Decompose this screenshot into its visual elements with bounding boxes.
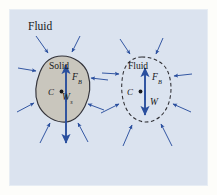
left-buoyant-force-subscript: B: [78, 78, 82, 85]
solid-body-label: Solid: [49, 62, 69, 72]
pressure-arrow: [91, 78, 108, 80]
pressure-arrow: [173, 104, 191, 112]
pressure-arrow: [17, 103, 34, 112]
pressure-arrow: [161, 124, 172, 146]
left-weight-subscript: s: [70, 98, 72, 105]
right-weight-symbol: W: [150, 97, 158, 107]
left-weight-symbol: W: [62, 92, 70, 102]
pressure-arrow: [174, 74, 192, 76]
pressure-arrow: [78, 123, 88, 142]
left-buoyant-force-symbol: F: [72, 72, 78, 82]
pressure-arrow: [101, 104, 119, 113]
buoyancy-figure: Fluid Solid Fluid FB Ws C FB W C: [0, 0, 217, 195]
left-buoyant-force-label: FB: [72, 73, 82, 84]
left-weight-label: Ws: [62, 93, 72, 104]
right-buoyant-force-label: FB: [152, 73, 162, 84]
centroid-dot: [139, 90, 143, 94]
pressure-arrow: [120, 39, 130, 54]
fluid-body-label: Fluid: [128, 62, 148, 72]
pressure-arrow: [18, 68, 36, 71]
right-body-group: [101, 38, 192, 146]
pressure-arrow: [123, 125, 132, 146]
pressure-arrow: [88, 104, 104, 110]
right-centroid-label: C: [127, 88, 133, 97]
right-buoyant-force-symbol: F: [152, 72, 158, 82]
pressure-arrow: [156, 38, 163, 54]
pressure-arrow: [102, 73, 119, 74]
pressure-arrow: [36, 36, 48, 53]
pressure-arrow: [72, 36, 80, 52]
right-pressure-arrows: [101, 38, 192, 146]
right-buoyant-force-subscript: B: [158, 78, 162, 85]
pressure-arrow: [40, 123, 50, 143]
left-body-group: [17, 36, 108, 143]
fluid-region-label: Fluid: [28, 21, 52, 33]
left-centroid-label: C: [48, 88, 54, 97]
right-weight-label: W: [150, 98, 158, 109]
